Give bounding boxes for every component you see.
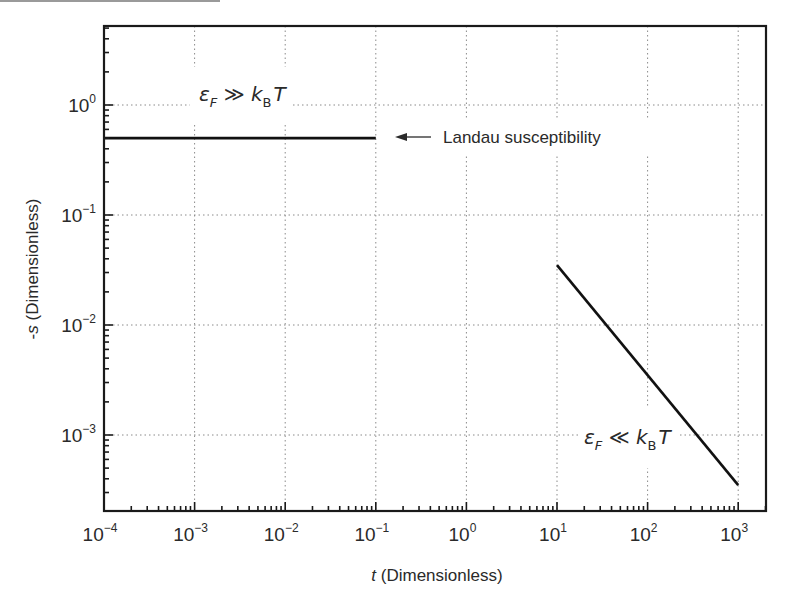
y-tick-label: 10−3 — [61, 422, 96, 446]
x-tick-label: 10−3 — [173, 521, 208, 545]
y-axis-title: -s (Dimensionless) — [23, 199, 42, 340]
x-tick-label: 102 — [630, 521, 658, 545]
log-log-chart: 10−410−310−210−1100101102103 10010−110−2… — [0, 0, 792, 608]
annotation-backgrounds — [190, 67, 678, 468]
x-tick-label: 10−1 — [354, 521, 389, 545]
annotation-landau-susceptibility: Landau susceptibility — [443, 128, 601, 147]
y-tick-label: 100 — [68, 92, 96, 116]
y-tick-label: 10−1 — [61, 202, 96, 226]
y-axis-tick-labels: 10010−110−210−3 — [61, 92, 96, 446]
x-axis-title-rest: (Dimensionless) — [376, 566, 503, 585]
x-tick-label: 10−2 — [264, 521, 299, 545]
y-axis-title-rest: (Dimensionless) — [23, 199, 42, 326]
x-axis-ticks — [104, 502, 765, 511]
y-tick-label: 10−2 — [61, 312, 96, 336]
x-tick-label: 10−4 — [83, 521, 118, 545]
x-axis-title: t (Dimensionless) — [371, 566, 502, 585]
x-tick-label: 101 — [539, 521, 567, 545]
y-axis-ticks — [104, 28, 113, 492]
x-tick-label: 103 — [720, 521, 748, 545]
x-tick-label: 100 — [448, 521, 476, 545]
x-axis-tick-labels: 10−410−310−210−1100101102103 — [83, 521, 749, 545]
